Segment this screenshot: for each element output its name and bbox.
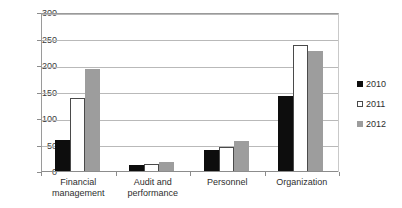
x-axis-tick-mark [116, 172, 117, 176]
bar-2012-cat0 [85, 69, 100, 172]
x-axis-category-label: Organization [265, 177, 340, 188]
x-axis-category-label: Personnel [190, 177, 265, 188]
legend-swatch-black-icon [357, 81, 363, 87]
bar-2010-cat3 [278, 96, 293, 172]
x-axis-category-label: Financial management [41, 177, 116, 199]
bar-2012-cat2 [234, 141, 249, 172]
legend-item-2012[interactable]: 2012 [357, 114, 402, 134]
bar-2010-cat2 [204, 150, 219, 172]
gridline [42, 40, 338, 41]
bar-2011-cat0 [70, 98, 85, 172]
legend-item-label: 2010 [366, 80, 386, 89]
x-axis-tick-mark [41, 172, 42, 176]
x-axis-category-label: Audit and performance [116, 177, 191, 199]
bar-2011-cat3 [293, 45, 308, 172]
legend-item-label: 2012 [366, 120, 386, 129]
plot-area [41, 13, 339, 172]
x-axis-tick-mark [339, 172, 340, 176]
chart-legend: 201020112012 [357, 74, 402, 134]
bar-2010-cat0 [55, 140, 70, 172]
bar-2011-cat2 [219, 147, 234, 172]
x-axis-tick-mark [190, 172, 191, 176]
legend-item-2010[interactable]: 2010 [357, 74, 402, 94]
gridline [42, 14, 338, 15]
legend-swatch-gray-icon [357, 121, 363, 127]
bar-chart: 300250200150100500 Financial managementA… [0, 0, 402, 208]
legend-item-2011[interactable]: 2011 [357, 94, 402, 114]
legend-item-label: 2011 [366, 100, 385, 109]
bar-2012-cat3 [308, 51, 323, 172]
x-axis-tick-mark [265, 172, 266, 176]
legend-swatch-white-icon [357, 101, 363, 107]
